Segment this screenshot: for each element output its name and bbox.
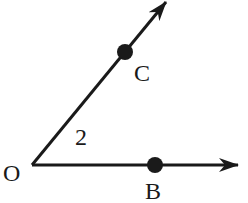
angle-label-2: 2	[75, 124, 87, 150]
point-c	[117, 44, 133, 60]
angle-diagram: O B C 2	[0, 0, 248, 203]
vertex-label-o: O	[3, 160, 20, 186]
point-label-b: B	[145, 178, 161, 203]
point-b	[147, 157, 163, 173]
point-label-c: C	[134, 60, 150, 86]
